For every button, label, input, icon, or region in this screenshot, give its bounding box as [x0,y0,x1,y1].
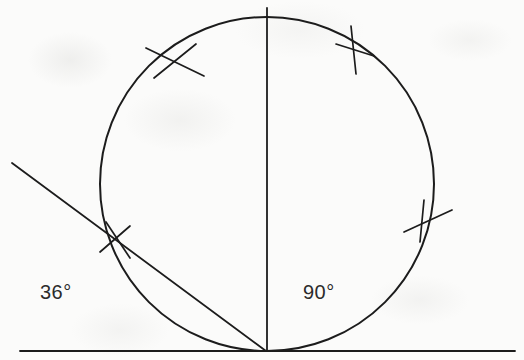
angle-label-90: 90° [303,281,335,304]
arc-tick-right [404,200,452,242]
figure-canvas [0,0,524,360]
geometry-figure: 36° 90° [0,0,524,360]
oblique-chord-line [12,163,266,351]
angle-label-36: 36° [40,281,72,304]
